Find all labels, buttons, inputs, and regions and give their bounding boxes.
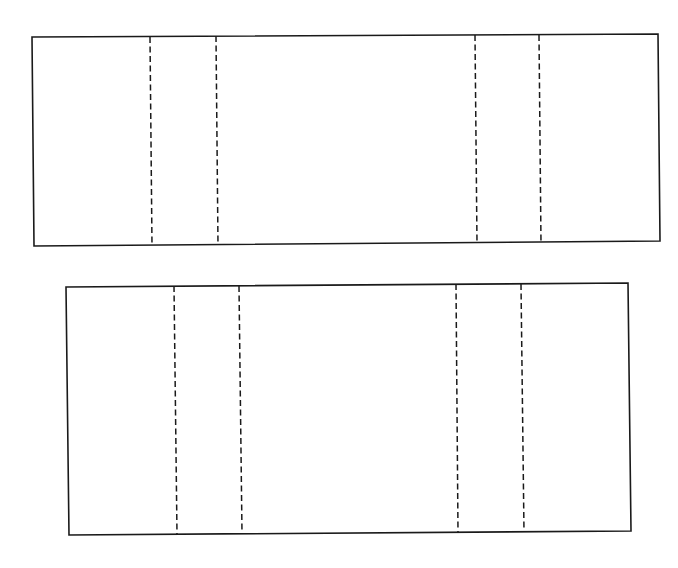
bottom-panel-outline bbox=[66, 283, 631, 535]
bottom-panel-fold-line-1 bbox=[174, 286, 177, 534]
bottom-panel-fold-line-2 bbox=[239, 286, 242, 533]
bottom-panel-fold-line-4 bbox=[521, 284, 524, 532]
top-panel-fold-line-2 bbox=[216, 36, 218, 245]
top-panel-fold-line-1 bbox=[150, 37, 152, 245]
bottom-panel-fold-lines bbox=[174, 284, 524, 534]
top-panel bbox=[32, 34, 660, 246]
top-panel-outline bbox=[32, 34, 660, 246]
fold-diagram bbox=[0, 0, 678, 568]
top-panel-fold-line-3 bbox=[475, 35, 477, 243]
top-panel-fold-lines bbox=[150, 35, 541, 245]
top-panel-fold-line-4 bbox=[539, 35, 541, 243]
bottom-panel bbox=[66, 283, 631, 535]
bottom-panel-fold-line-3 bbox=[456, 284, 458, 532]
